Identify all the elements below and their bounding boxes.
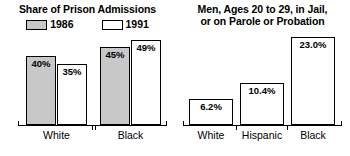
category-label-white-right: White (189, 129, 233, 142)
chart-title-right-line1: Men, Ages 20 to 29, in Jail, (175, 3, 350, 15)
chart-title-left: Share of Prison Admissions (0, 3, 175, 15)
bar-value-white-jail: 6.2% (190, 101, 232, 112)
category-labels-right: White Hispanic Black (175, 129, 350, 145)
bar-white-jail: 6.2% (189, 99, 233, 125)
category-labels-left: White Black (0, 129, 175, 145)
category-label-black-left: Black (100, 129, 161, 142)
legend-item-1986: 1986 (26, 19, 73, 30)
category-label-white-left: White (26, 129, 87, 142)
bar-white-1991: 35% (57, 64, 87, 125)
bar-value-black-1991: 49% (132, 42, 160, 53)
legend-swatch-1986-icon (26, 20, 47, 30)
plot-area-left: 40% 35% 45% 49% (0, 34, 175, 126)
bar-value-white-1991: 35% (58, 66, 86, 77)
legend-item-1991: 1991 (102, 19, 149, 30)
bar-white-1986: 40% (26, 56, 56, 125)
x-axis-right-cap-start (183, 121, 184, 126)
bar-value-white-1986: 40% (27, 58, 55, 69)
bar-hispanic-jail: 10.4% (240, 83, 284, 125)
chart-title-right: Men, Ages 20 to 29, in Jail, or on Parol… (175, 3, 350, 27)
bar-value-black-1986: 45% (101, 49, 129, 60)
legend-label-1986: 1986 (50, 19, 73, 30)
legend-left: 1986 1991 (0, 19, 175, 30)
two-panel-bar-chart-figure: Share of Prison Admissions 1986 1991 40%… (0, 0, 350, 156)
chart-title-right-line2: or on Parole or Probation (175, 15, 350, 27)
chart-title-left-line1: Share of Prison Admissions (0, 3, 175, 15)
bar-black-1991: 49% (131, 40, 161, 125)
x-axis-left-cap-start (18, 121, 19, 126)
bar-value-black-jail: 23.0% (292, 39, 334, 50)
legend-swatch-1991-icon (102, 20, 123, 30)
legend-label-1991: 1991 (126, 19, 149, 30)
chart-panel-prison-admissions: Share of Prison Admissions 1986 1991 40%… (0, 0, 175, 156)
x-axis-right-cap-end (341, 121, 342, 126)
x-axis-right (183, 125, 342, 126)
bar-value-hispanic-jail: 10.4% (241, 85, 283, 96)
bar-black-jail: 23.0% (291, 37, 335, 125)
bar-black-1986: 45% (100, 47, 130, 125)
plot-area-right: 6.2% 10.4% 23.0% (175, 34, 350, 126)
category-label-black-right: Black (291, 129, 335, 142)
category-label-hispanic-right: Hispanic (238, 129, 286, 142)
x-axis-left-cap-end (166, 121, 167, 126)
chart-panel-men-jail-parole-probation: Men, Ages 20 to 29, in Jail, or on Parol… (175, 0, 350, 156)
